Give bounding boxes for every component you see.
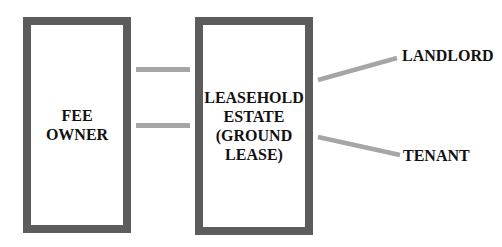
connector-tenant [318,137,400,155]
connector-landlord [318,58,397,80]
landlord-label: LANDLORD [402,48,494,64]
leasehold-estate-box: LEASEHOLD ESTATE (GROUND LEASE) [195,17,313,235]
tenant-label: TENANT [403,148,470,164]
fee-owner-label: FEE OWNER [31,106,123,144]
fee-owner-box: FEE OWNER [23,17,131,233]
leasehold-estate-label: LEASEHOLD ESTATE (GROUND LEASE) [204,88,304,164]
connector-bottom [136,123,190,128]
connector-top [136,67,190,72]
